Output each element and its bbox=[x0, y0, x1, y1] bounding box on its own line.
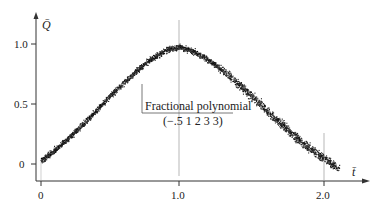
y-tick-label-0: 0 bbox=[19, 159, 25, 170]
annotation-title: Fractional polynomial bbox=[145, 100, 251, 112]
x-axis-label: t̄ bbox=[352, 166, 355, 178]
x-axis-arrow-icon bbox=[362, 179, 370, 184]
annotation-params: (−.5 1 2 3 3) bbox=[163, 115, 223, 127]
x-tick-label-1: 1.0 bbox=[171, 190, 185, 201]
x-tick-label-2: 2.0 bbox=[316, 190, 330, 201]
x-tick-label-0: 0 bbox=[38, 190, 44, 201]
y-axis-label: Q̄ bbox=[42, 19, 51, 31]
y-tick-label-05: 0.5 bbox=[14, 99, 28, 110]
y-tick-label-1: 1.0 bbox=[14, 39, 28, 50]
y-axis-arrow-icon bbox=[34, 12, 39, 19]
